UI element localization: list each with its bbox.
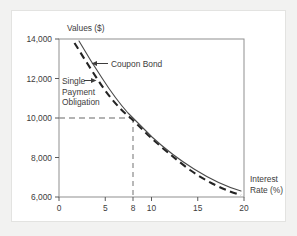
y-tick-label-12000: 12,000	[26, 74, 52, 84]
y-axis-ticks	[55, 39, 59, 197]
x-tick-label-5: 5	[103, 203, 108, 213]
single-payment-label-line1: Single	[62, 76, 86, 86]
single-payment-label-line2: Payment	[62, 87, 96, 97]
y-tick-label-10000: 10,000	[26, 113, 52, 123]
coupon-bond-label: Coupon Bond	[111, 59, 163, 69]
x-tick-label-8: 8	[131, 203, 136, 213]
x-tick-label-10: 10	[147, 203, 157, 213]
y-tick-label-8000: 8,000	[31, 153, 52, 163]
annotation-coupon-bond: Coupon Bond	[92, 59, 163, 69]
y-tick-label-14000: 14,000	[26, 34, 52, 44]
x-tick-label-0: 0	[57, 203, 62, 213]
x-tick-label-15: 15	[193, 203, 203, 213]
x-axis-ticks	[59, 197, 244, 201]
x-tick-label-20: 20	[239, 203, 249, 213]
chart-plot-area: 14,000 12,000 10,000 8,000 6,000 0 5 8 1…	[12, 11, 287, 223]
guide-lines	[59, 118, 133, 197]
x-axis-label-line1: Interest	[250, 174, 279, 184]
x-axis-label-line2: Rate (%)	[250, 185, 283, 195]
figure-page: 14,000 12,000 10,000 8,000 6,000 0 5 8 1…	[0, 0, 297, 236]
y-tick-label-6000: 6,000	[31, 192, 52, 202]
single-payment-label-line3: Obligation	[62, 97, 100, 107]
y-axis-label: Values ($)	[67, 23, 105, 33]
annotation-single-payment-obligation: Single Payment Obligation	[62, 76, 100, 107]
single-payment-arrow-icon	[91, 78, 97, 83]
figure-card: 14,000 12,000 10,000 8,000 6,000 0 5 8 1…	[11, 10, 286, 222]
